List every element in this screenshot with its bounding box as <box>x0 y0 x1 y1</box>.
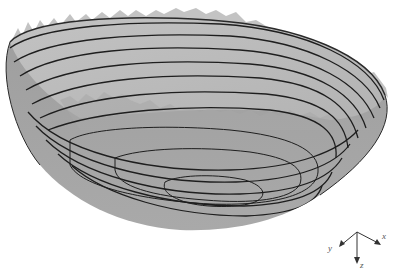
x-axis-label: x <box>381 231 386 241</box>
x-arrow-icon <box>374 239 381 245</box>
y-axis-label: y <box>327 243 332 253</box>
bowl-surface-figure: x y z <box>0 0 403 279</box>
axes-indicator: x y z <box>327 231 386 270</box>
z-axis-label: z <box>359 260 364 270</box>
y-arrow-icon <box>339 240 345 247</box>
